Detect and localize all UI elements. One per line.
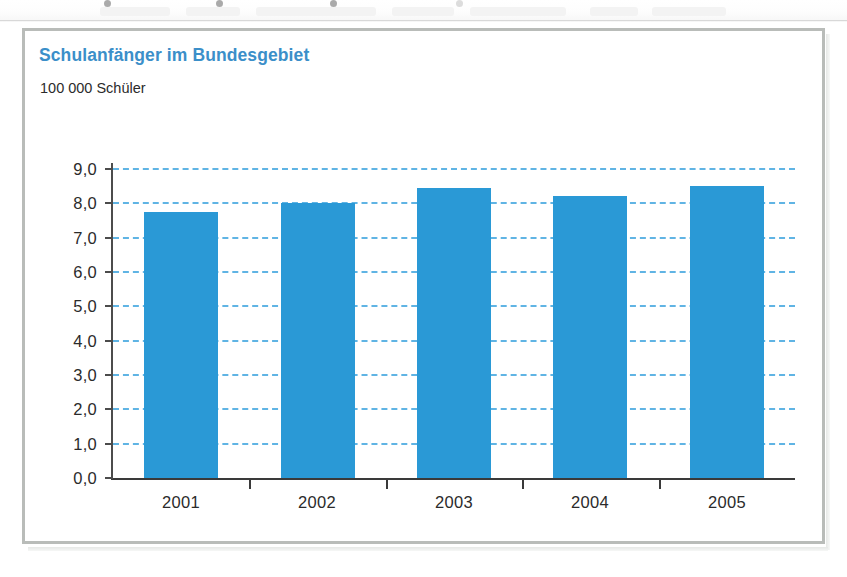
y-axis-tick-8-0 — [105, 202, 113, 204]
y-axis-tick-0-0 — [105, 477, 113, 479]
y-axis-label: 0,0 — [25, 469, 97, 488]
y-axis-tick-4-0 — [105, 340, 113, 342]
y-axis-label: 4,0 — [25, 331, 97, 350]
y-axis-tick-7-0 — [105, 237, 113, 239]
y-axis-label: 2,0 — [25, 400, 97, 419]
gridline-y-9-0 — [113, 168, 795, 170]
x-axis-label-2003: 2003 — [386, 493, 522, 512]
bar-2005 — [690, 186, 764, 478]
y-axis-label: 9,0 — [25, 160, 97, 179]
bar-2003 — [417, 188, 491, 478]
panel-shadow-bottom — [28, 547, 828, 551]
x-axis-label-2004: 2004 — [522, 493, 658, 512]
y-axis-tick-2-0 — [105, 408, 113, 410]
plot-area: 0,01,02,03,04,05,06,07,08,09,02001200220… — [25, 31, 822, 541]
y-axis-tick-6-0 — [105, 271, 113, 273]
y-axis-tick-1-0 — [105, 443, 113, 445]
x-axis-label-2005: 2005 — [659, 493, 795, 512]
x-axis-line — [111, 478, 795, 480]
scan-artifact — [0, 0, 847, 22]
bar-2002 — [281, 203, 355, 478]
bar-2004 — [553, 196, 627, 478]
x-axis-tick — [659, 480, 661, 489]
chart-panel: Schulanfänger im Bundesgebiet 100 000 Sc… — [22, 28, 825, 544]
x-axis-label-2002: 2002 — [249, 493, 385, 512]
panel-shadow-right — [826, 34, 830, 550]
x-axis-label-2001: 2001 — [113, 493, 249, 512]
y-axis-label: 8,0 — [25, 194, 97, 213]
y-axis-label: 1,0 — [25, 434, 97, 453]
bar-2001 — [144, 212, 218, 478]
y-axis-label: 5,0 — [25, 297, 97, 316]
y-axis-tick-9-0 — [105, 168, 113, 170]
x-axis-tick — [386, 480, 388, 489]
y-axis-label: 6,0 — [25, 263, 97, 282]
y-axis-tick-5-0 — [105, 305, 113, 307]
y-axis-label: 7,0 — [25, 228, 97, 247]
y-axis-line — [111, 163, 113, 479]
x-axis-tick — [522, 480, 524, 489]
y-axis-tick-3-0 — [105, 374, 113, 376]
x-axis-tick — [249, 480, 251, 489]
y-axis-label: 3,0 — [25, 366, 97, 385]
